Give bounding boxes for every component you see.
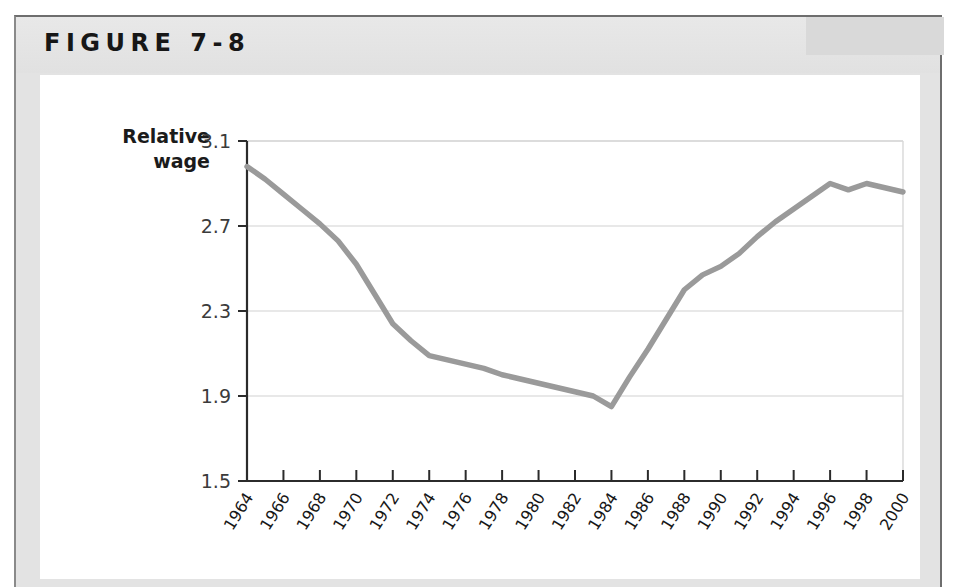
x-tick-label: 2000 [876,489,914,534]
x-tick-label: 1978 [475,489,513,534]
x-tick-label: 1990 [693,489,731,534]
x-tick-label: 1972 [365,489,403,534]
x-tick-label: 1964 [220,489,258,534]
y-tick-label: 1.5 [201,470,231,492]
y-tick-label: 2.7 [201,215,231,237]
x-tick-label: 1992 [730,489,768,534]
figure-header-band: FIGURE 7-8 [16,17,940,73]
figure-card: FIGURE 7-8 Relative wage 3.12.72.31.91.5… [14,15,942,587]
x-tick-label: 1968 [293,489,331,534]
chart-panel: Relative wage 3.12.72.31.91.5 1964196619… [40,75,920,579]
x-tick-label: 1996 [803,489,841,534]
x-tick-label: 1994 [766,489,804,534]
y-tick-label: 3.1 [201,130,231,152]
x-tick-label: 1970 [329,489,367,534]
x-tick-label: 1980 [511,489,549,534]
x-tick-label: 1998 [839,489,877,534]
x-tick-label: 1988 [657,489,695,534]
x-tick-label: 1982 [548,489,586,534]
x-tick-label: 1986 [621,489,659,534]
x-axis-ticks: 1964196619681970197219741976197819801982… [220,470,914,534]
y-tick-label: 1.9 [201,385,231,407]
x-tick-label: 1976 [438,489,476,534]
gridlines [247,141,903,396]
x-tick-label: 1974 [402,489,440,534]
y-tick-label: 2.3 [201,300,231,322]
figure-screenshot: FIGURE 7-8 Relative wage 3.12.72.31.91.5… [0,0,956,587]
figure-label: FIGURE 7-8 [44,29,250,57]
line-chart: 3.12.72.31.91.5 196419661968197019721974… [40,75,920,579]
header-shade-block [806,17,944,55]
x-tick-label: 1966 [256,489,294,534]
relative-wage-series [247,167,903,407]
y-axis-ticks: 3.12.72.31.91.5 [201,130,247,492]
x-tick-label: 1984 [584,489,622,534]
